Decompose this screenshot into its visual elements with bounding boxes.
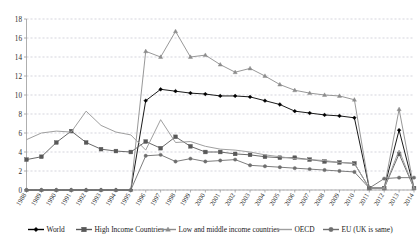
data-point-marker bbox=[219, 159, 222, 162]
x-axis-label-1993: 1993 bbox=[89, 191, 102, 206]
x-axis-label-1990: 1990 bbox=[44, 191, 57, 206]
data-point-marker bbox=[84, 141, 88, 145]
y-axis-label-4: 4 bbox=[18, 149, 22, 157]
data-point-marker bbox=[218, 62, 222, 66]
data-point-marker bbox=[293, 109, 297, 113]
data-point-marker bbox=[40, 155, 44, 159]
x-axis-label-1998: 1998 bbox=[163, 191, 176, 206]
y-axis-label-10: 10 bbox=[15, 92, 23, 100]
data-point-marker bbox=[248, 95, 252, 99]
x-axis-label-2009: 2009 bbox=[327, 191, 340, 206]
data-point-marker bbox=[352, 116, 356, 120]
data-point-marker bbox=[397, 128, 401, 132]
legend-label: Low and middle income countries bbox=[179, 225, 280, 234]
ytick-label-layer: 024681012141618 bbox=[15, 16, 23, 195]
x-axis-label-2003: 2003 bbox=[238, 191, 251, 206]
data-point-marker bbox=[25, 158, 29, 162]
y-axis-label-12: 12 bbox=[15, 73, 23, 81]
legend-label: OECD bbox=[295, 225, 316, 234]
data-point-marker bbox=[218, 150, 222, 154]
y-axis-label-2: 2 bbox=[18, 168, 22, 176]
x-axis-label-2007: 2007 bbox=[298, 191, 311, 206]
data-point-marker bbox=[40, 188, 43, 191]
data-point-marker bbox=[159, 153, 162, 156]
data-point-marker bbox=[159, 146, 163, 150]
data-point-marker bbox=[233, 152, 237, 156]
legend-item-eu-uk-is-same[interactable]: EU (UK is same) bbox=[323, 225, 393, 234]
data-point-marker bbox=[203, 53, 207, 57]
data-point-marker bbox=[203, 92, 207, 96]
data-point-marker bbox=[174, 160, 177, 163]
data-point-marker bbox=[338, 114, 342, 118]
data-point-marker bbox=[99, 188, 102, 191]
data-point-marker bbox=[204, 160, 207, 163]
x-axis-label-2010: 2010 bbox=[342, 191, 355, 206]
x-axis-label-2014: 2014 bbox=[402, 191, 415, 206]
data-point-marker bbox=[54, 141, 58, 145]
data-point-marker bbox=[174, 89, 178, 93]
series-layer bbox=[24, 29, 416, 192]
x-axis-label-1989: 1989 bbox=[29, 191, 42, 206]
data-point-marker bbox=[114, 188, 117, 191]
data-point-marker bbox=[129, 188, 132, 191]
y-axis-label-16: 16 bbox=[15, 35, 23, 43]
x-axis-label-2006: 2006 bbox=[283, 191, 296, 206]
chart-canvas: 024681012141618 198819891990199119921993… bbox=[0, 0, 419, 245]
x-axis-label-1996: 1996 bbox=[134, 191, 147, 206]
y-axis-label-18: 18 bbox=[15, 16, 23, 24]
data-point-marker bbox=[55, 188, 58, 191]
x-axis-label-2004: 2004 bbox=[253, 191, 266, 206]
data-point-marker bbox=[278, 103, 282, 107]
legend-item-oecd[interactable]: OECD bbox=[276, 225, 315, 234]
legend-swatch-marker bbox=[34, 227, 38, 231]
data-point-marker bbox=[144, 49, 148, 53]
data-point-marker bbox=[263, 165, 266, 168]
data-point-marker bbox=[248, 66, 252, 70]
legend-label: High Income Countries bbox=[95, 225, 165, 234]
legend-item-low-and-middle-income-countries[interactable]: Low and middle income countries bbox=[160, 225, 280, 234]
legend-label: EU (UK is same) bbox=[342, 225, 394, 234]
x-axis-label-2013: 2013 bbox=[387, 191, 400, 206]
data-point-marker bbox=[174, 135, 178, 139]
data-point-marker bbox=[397, 107, 401, 111]
data-point-marker bbox=[144, 154, 147, 157]
data-point-marker bbox=[338, 169, 341, 172]
x-axis-label-2002: 2002 bbox=[223, 192, 236, 207]
x-axis-label-1991: 1991 bbox=[59, 192, 72, 207]
x-axis-label-1999: 1999 bbox=[178, 191, 191, 206]
xtick-label-layer: 1988198919901991199219931994199519961997… bbox=[14, 191, 415, 206]
x-axis-label-1995: 1995 bbox=[119, 191, 132, 206]
data-point-marker bbox=[114, 149, 118, 153]
legend-item-world[interactable]: World bbox=[28, 225, 65, 234]
data-point-marker bbox=[129, 150, 133, 154]
y-axis-label-8: 8 bbox=[18, 111, 22, 119]
data-point-marker bbox=[233, 158, 236, 161]
x-axis-label-2012: 2012 bbox=[372, 192, 385, 207]
data-point-marker bbox=[144, 140, 148, 144]
x-axis-label-1992: 1992 bbox=[74, 192, 87, 207]
data-point-marker bbox=[189, 157, 192, 160]
series-low-and-middle-income-countries bbox=[24, 29, 416, 191]
x-axis-label-1997: 1997 bbox=[149, 191, 162, 206]
data-point-marker bbox=[368, 186, 371, 189]
y-axis-label-14: 14 bbox=[15, 54, 23, 62]
legend-item-high-income-countries[interactable]: High Income Countries bbox=[76, 225, 164, 234]
data-point-marker bbox=[308, 111, 312, 115]
chart-legend: WorldHigh Income CountriesLow and middle… bbox=[28, 225, 393, 234]
data-point-marker bbox=[248, 153, 252, 157]
data-point-marker bbox=[189, 144, 193, 148]
y-axis-label-6: 6 bbox=[18, 130, 22, 138]
x-axis-label-2000: 2000 bbox=[193, 191, 206, 206]
data-point-marker bbox=[218, 94, 222, 98]
data-point-marker bbox=[173, 29, 177, 33]
x-axis-label-2005: 2005 bbox=[268, 191, 281, 206]
x-axis-label-2008: 2008 bbox=[313, 191, 326, 206]
data-point-marker bbox=[293, 166, 296, 169]
series-world bbox=[25, 87, 416, 191]
data-point-marker bbox=[233, 94, 237, 98]
series-line bbox=[27, 89, 415, 190]
legend-label: World bbox=[47, 225, 66, 234]
data-point-marker bbox=[248, 164, 251, 167]
data-point-marker bbox=[84, 188, 87, 191]
legend-swatch-marker bbox=[329, 227, 333, 231]
